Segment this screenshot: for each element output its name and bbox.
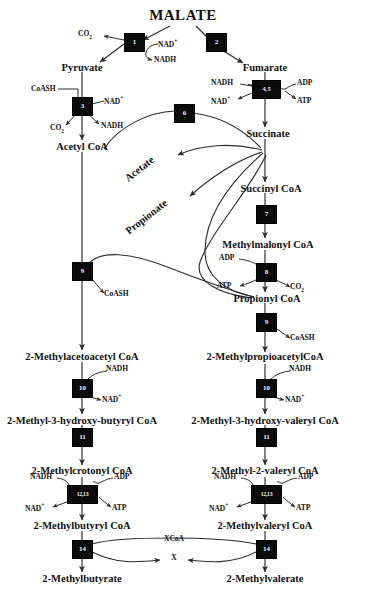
- enzyme-box-2[interactable]: 2: [206, 33, 227, 52]
- enzyme-box-6[interactable]: 6: [174, 104, 195, 123]
- metabolite-succinyl-coa: Succinyl CoA: [241, 184, 302, 195]
- cofactor-nadh-step10-right: NADH: [289, 365, 311, 373]
- enzyme-box-10-left-label: 10: [79, 385, 86, 392]
- enzyme-box-12-13-right-label: 12,13: [261, 492, 273, 498]
- cofactor-nad-plus-step10-right: NAD+: [285, 394, 304, 403]
- enzyme-box-8[interactable]: 8: [256, 263, 277, 282]
- metabolite-methylvalerate: 2-Methylvalerate: [227, 574, 304, 585]
- enzyme-box-14-left-label: 14: [79, 546, 86, 553]
- cofactor-adp-step1213-left: ADP: [114, 473, 129, 481]
- cofactor-nadh-step10-left: NADH: [106, 365, 128, 373]
- metabolite-methylbutyrate: 2-Methylbutyrate: [42, 574, 121, 585]
- metabolite-succinate: Succinate: [246, 129, 289, 140]
- enzyme-box-12-13-right[interactable]: 12,13: [251, 485, 282, 504]
- metabolite-fumarate: Fumarate: [243, 63, 287, 74]
- cofactor-atp-step45: ATP: [297, 97, 311, 105]
- enzyme-box-14-right-label: 14: [263, 546, 270, 553]
- enzyme-box-11-left-label: 11: [79, 434, 86, 441]
- enzyme-box-7-label: 7: [265, 211, 269, 218]
- metabolite-methylbutyryl-coa: 2-Methylbutyryl CoA: [33, 521, 130, 532]
- cofactor-atp-step1213-left: ATP: [112, 504, 126, 512]
- cofactor-adp-step45: ADP: [297, 79, 312, 87]
- enzyme-box-7[interactable]: 7: [256, 205, 277, 224]
- enzyme-box-3-label: 3: [81, 103, 85, 110]
- enzyme-box-9-left-label: 9: [81, 268, 85, 275]
- metabolite-methyl-3-hydroxy-valeryl-coa: 2-Methyl-3-hydroxy-valeryl CoA: [191, 416, 339, 427]
- enzyme-box-9-right[interactable]: 9: [256, 313, 277, 332]
- enzyme-box-14-left[interactable]: 14: [72, 540, 93, 559]
- cofactor-xcoa: XCoA: [164, 535, 184, 543]
- metabolite-methyl-3-hydroxy-butyryl-coa: 2-Methyl-3-hydroxy-butyryl CoA: [7, 416, 157, 427]
- cofactor-nadh-step1213-left: NADH: [30, 473, 52, 481]
- cofactor-nad-plus-step45: NAD+: [211, 96, 230, 105]
- metabolite-acetyl-coa: Acetyl CoA: [56, 142, 108, 153]
- enzyme-box-11-right[interactable]: 11: [256, 428, 277, 447]
- enzyme-box-1[interactable]: 1: [124, 33, 145, 52]
- cofactor-co2-step8: CO2: [290, 283, 304, 293]
- cofactor-nad-plus-step3: NAD+: [104, 96, 123, 105]
- metabolite-pyruvate: Pyruvate: [62, 63, 103, 74]
- cofactor-atp-step1213-right: ATP: [296, 504, 310, 512]
- enzyme-box-2-label: 2: [215, 39, 219, 46]
- pathway-diagram: MALATE 1 2 3 4, 5 6 7 8 9 9 10 10 11 11 …: [0, 0, 365, 600]
- cofactor-nadh-step1213-right: NADH: [214, 473, 236, 481]
- page-title: MALATE: [149, 8, 217, 23]
- enzyme-box-4-5[interactable]: 4, 5: [252, 80, 281, 99]
- cofactor-nad-plus-step1213-left: NAD+: [25, 503, 44, 512]
- enzyme-box-8-label: 8: [265, 269, 269, 276]
- enzyme-box-10-right[interactable]: 10: [256, 379, 277, 398]
- cofactor-nad-plus-step10-left: NAD+: [102, 394, 121, 403]
- cofactor-nadh-step45: NADH: [211, 79, 233, 87]
- enzyme-box-10-left[interactable]: 10: [72, 379, 93, 398]
- enzyme-box-11-right-label: 11: [263, 434, 270, 441]
- cofactor-coash-step9-right: CoASH: [290, 334, 315, 342]
- cofactor-nadh-step3: NADH: [101, 122, 123, 130]
- metabolite-methylacetoacetyl-coa: 2-Methylacetoacetyl CoA: [25, 352, 138, 363]
- enzyme-box-9-right-label: 9: [265, 319, 269, 326]
- enzyme-box-3[interactable]: 3: [72, 97, 93, 116]
- cofactor-nad-plus-step1213-right: NAD+: [209, 503, 228, 512]
- enzyme-box-4-5-label: 4, 5: [263, 87, 271, 93]
- cofactor-nad-plus-step1: NAD+: [158, 39, 177, 48]
- metabolite-methylmalonyl-coa: Methylmalonyl CoA: [222, 240, 313, 251]
- cofactor-co2-step3: CO2: [50, 124, 64, 134]
- cofactor-coash-step9-left: CoASH: [104, 290, 129, 298]
- enzyme-box-11-left[interactable]: 11: [72, 428, 93, 447]
- enzyme-box-12-13-left-label: 12,13: [77, 492, 89, 498]
- cofactor-adp-step8: ADP: [219, 254, 234, 262]
- enzyme-box-9-left[interactable]: 9: [72, 262, 93, 281]
- cofactor-atp-step8: ATP: [217, 282, 231, 290]
- enzyme-box-6-label: 6: [183, 110, 187, 117]
- cofactor-co2-step1: CO2: [78, 30, 92, 40]
- metabolite-methylvaleryl-coa: 2-Methylvaleryl CoA: [218, 521, 313, 532]
- metabolite-methylpropioacetyl-coa: 2-MethylpropioacetylCoA: [206, 352, 323, 363]
- cofactor-adp-step1213-right: ADP: [298, 473, 313, 481]
- enzyme-box-10-right-label: 10: [263, 385, 270, 392]
- cofactor-nadh-step1: NADH: [154, 56, 176, 64]
- enzyme-box-12-13-left[interactable]: 12,13: [67, 485, 98, 504]
- cofactor-coash-step3: CoASH: [31, 85, 56, 93]
- enzyme-box-1-label: 1: [133, 39, 137, 46]
- cofactor-x: X: [171, 554, 176, 562]
- metabolite-propionyl-coa: Propionyl CoA: [233, 294, 300, 305]
- enzyme-box-14-right[interactable]: 14: [256, 540, 277, 559]
